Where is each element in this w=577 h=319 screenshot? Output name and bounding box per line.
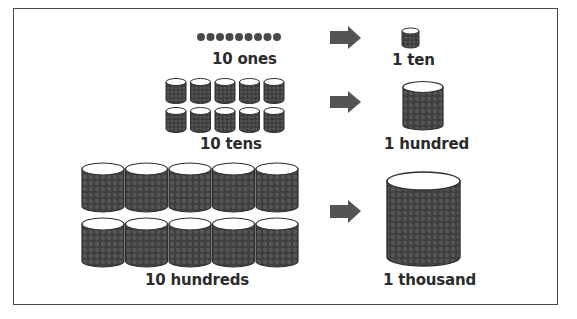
ones-label: 10 ones: [212, 52, 277, 67]
right-arrow-icon: [330, 200, 361, 223]
tens-cylinders: [166, 79, 284, 133]
thousand-cylinder-icon: [387, 172, 460, 266]
tens-label: 10 tens: [200, 137, 262, 152]
right-arrow-icon: [330, 26, 361, 49]
hundred-label: 1 hundred: [384, 137, 469, 152]
hundred-cylinder-icon: [403, 82, 443, 131]
ones-dots: [197, 33, 291, 41]
diagram-graphics: [0, 0, 577, 319]
hundreds-label: 10 hundreds: [145, 273, 249, 288]
hundreds-cylinders: [82, 163, 298, 267]
thousand-label: 1 thousand: [383, 273, 476, 288]
ten-cylinder-icon: [402, 28, 419, 48]
ten-label: 1 ten: [392, 53, 435, 68]
right-arrow-icon: [330, 91, 361, 113]
